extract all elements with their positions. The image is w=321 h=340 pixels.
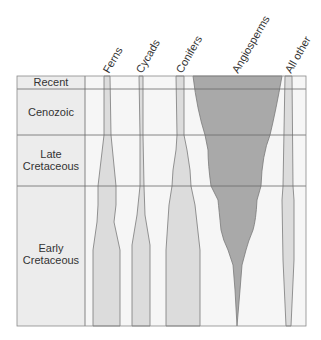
era-label-early: Early [38, 242, 64, 254]
spindle-chart: Recent Cenozoic Late Cretaceous Early Cr… [0, 0, 321, 340]
column-label-cycads: Cycads [133, 37, 162, 75]
era-label-cenozoic: Cenozoic [28, 106, 74, 118]
column-label-ferns: Ferns [100, 44, 125, 75]
column-label-angiosperms: Angiosperms [229, 13, 272, 75]
era-label-early-cretaceous: Cretaceous [23, 254, 80, 266]
era-label-late: Late [40, 148, 61, 160]
column-label-all-other: All other [282, 34, 313, 75]
column-label-conifers: Conifers [173, 33, 204, 75]
era-label-recent: Recent [34, 76, 69, 88]
era-label-late-cretaceous: Cretaceous [23, 160, 80, 172]
